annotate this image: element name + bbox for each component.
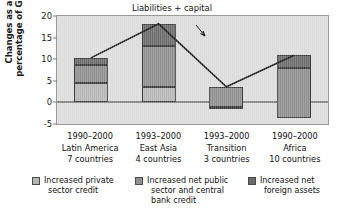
legend-label-line1: Increased net public: [147, 176, 228, 186]
plot-area: 20151050-5: [56, 15, 329, 125]
legend-label: Increased private sector credit: [44, 176, 114, 196]
legend-label-line2: foreign assets: [260, 186, 320, 196]
x-label-countries: 4 countries: [124, 154, 192, 166]
chart-container: Changes as a percentage of GDP 20151050-…: [0, 0, 350, 216]
legend-label-line2: sector credit: [44, 186, 114, 196]
x-label-period: 1993–2000: [193, 131, 261, 143]
legend-swatch-icon: [248, 177, 256, 185]
legend-label: Increased net foreign assets: [260, 176, 320, 196]
bar-1[interactable]: [142, 16, 176, 124]
annotation-liabilities-capital: Liabilities + capital: [132, 3, 212, 13]
legend-item-private-sector-credit: Increased private sector credit: [32, 176, 126, 212]
legend-label-line2: sector and central: [147, 186, 228, 196]
x-label-transition: 1993–2000 Transition 3 countries: [193, 131, 261, 167]
x-label-africa: 1990–2000 Africa 10 countries: [261, 131, 329, 167]
legend-label-line3: bank credit: [147, 196, 228, 206]
legend-label: Increased net public sector and central …: [147, 176, 228, 206]
x-label-countries: 3 countries: [193, 154, 261, 166]
bar-segment[interactable]: [209, 87, 243, 107]
legend-item-net-foreign-assets: Increased net foreign assets: [248, 176, 338, 212]
x-label-east-asia: 1993–2000 East Asia 4 countries: [124, 131, 192, 167]
bar-segment[interactable]: [74, 65, 108, 83]
x-label-period: 1990–2000: [56, 131, 124, 143]
x-label-region: Latin America: [56, 143, 124, 155]
x-label-countries: 7 countries: [56, 154, 124, 166]
legend-label-line1: Increased private: [44, 176, 114, 186]
bar-segment[interactable]: [142, 24, 176, 46]
bar-3[interactable]: [277, 16, 311, 124]
y-axis-title-line2: percentage of GDP: [14, 0, 24, 92]
bar-segment[interactable]: [74, 83, 108, 103]
bar-segment[interactable]: [277, 55, 311, 68]
legend-swatch-icon: [135, 177, 143, 185]
x-label-countries: 10 countries: [261, 154, 329, 166]
bar-0[interactable]: [74, 16, 108, 124]
bar-segment[interactable]: [142, 87, 176, 102]
y-axis-tick-mark: [53, 37, 57, 38]
legend-label-line1: Increased net: [260, 176, 320, 186]
y-axis-tick-mark: [53, 16, 57, 17]
bar-segment[interactable]: [142, 46, 176, 87]
y-axis-tick-mark: [53, 124, 57, 125]
x-label-region: Africa: [261, 143, 329, 155]
legend-item-net-public-sector-credit: Increased net public sector and central …: [135, 176, 239, 212]
bar-segment[interactable]: [209, 107, 243, 109]
y-axis-title: Changes as a percentage of GDP: [4, 0, 24, 92]
bar-2[interactable]: [209, 16, 243, 124]
x-label-latin-america: 1990–2000 Latin America 7 countries: [56, 131, 124, 167]
legend-swatch-icon: [32, 177, 40, 185]
bar-segment[interactable]: [277, 68, 311, 117]
y-axis-tick-mark: [53, 80, 57, 81]
chart-legend: Increased private sector credit Increase…: [32, 176, 338, 212]
x-label-period: 1993–2000: [124, 131, 192, 143]
y-axis-tick-mark: [53, 59, 57, 60]
y-axis-title-line1: Changes as a: [4, 0, 14, 92]
x-label-period: 1990–2000: [261, 131, 329, 143]
x-axis-labels: 1990–2000 Latin America 7 countries 1993…: [56, 131, 329, 167]
bar-segment[interactable]: [74, 58, 108, 65]
x-label-region: East Asia: [124, 143, 192, 155]
x-label-region: Transition: [193, 143, 261, 155]
y-axis-tick-mark: [53, 102, 57, 103]
